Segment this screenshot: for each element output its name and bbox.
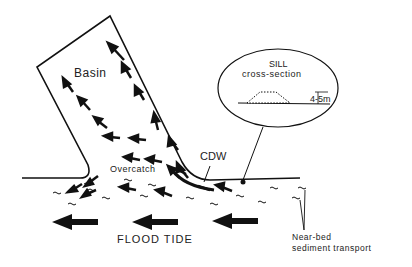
basin-label: Basin bbox=[74, 66, 107, 80]
near-bed-leaders bbox=[300, 190, 305, 230]
sill-subtitle-label: cross-section bbox=[242, 69, 302, 79]
near-bed-label: Near-bed bbox=[292, 232, 331, 242]
basin-flow-arrows bbox=[63, 43, 188, 178]
overcatch-label: Overcatch bbox=[110, 164, 156, 174]
sill-title-label: SILL bbox=[269, 59, 288, 69]
flood-tide-label: FLOOD TIDE bbox=[117, 233, 193, 245]
flood-tide-arrows bbox=[52, 213, 258, 230]
sill-leader-line bbox=[243, 127, 263, 180]
diagram-canvas bbox=[0, 0, 412, 267]
sediment-transport-label: sediment transport bbox=[292, 243, 371, 253]
cdw-label: CDW bbox=[200, 150, 226, 162]
sill-height-label: 4-5m bbox=[310, 94, 331, 104]
